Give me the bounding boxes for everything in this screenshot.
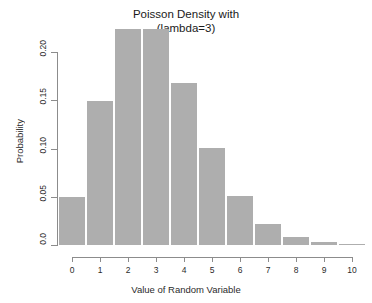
y-tick-label: 0.10 [38,137,48,154]
x-tick-label: 10 [342,265,362,275]
x-tick-label: 5 [202,265,222,275]
poisson-density-chart: Poisson Density with (lambda=3) 0.00.050… [0,0,372,303]
x-axis-title: Value of Random Variable [0,284,372,295]
plot-area: 0.00.050.100.150.20 Probability 01234567… [0,0,372,303]
y-tick-mark [51,245,57,246]
y-axis-line [57,52,58,246]
bar [59,197,85,245]
x-tick-label: 1 [90,265,110,275]
x-tick-mark [296,257,297,262]
x-tick-mark [268,257,269,262]
y-tick-label: 0.15 [38,88,48,105]
x-tick-mark [100,257,101,262]
x-tick-mark [128,257,129,262]
x-tick-mark [156,257,157,262]
bar [171,83,197,245]
x-tick-label: 0 [62,265,82,275]
y-tick-mark [51,197,57,198]
y-tick-mark [51,100,57,101]
x-tick-label: 2 [118,265,138,275]
x-tick-label: 4 [174,265,194,275]
x-tick-mark [240,257,241,262]
x-tick-mark [184,257,185,262]
bar [115,29,141,245]
bar [199,148,225,245]
bar [87,101,113,245]
y-tick-mark [51,52,57,53]
x-tick-label: 8 [286,265,306,275]
y-tick-mark [51,149,57,150]
bar [339,244,365,245]
bar [255,224,281,245]
bar [311,242,337,245]
x-tick-mark [352,257,353,262]
x-tick-mark [72,257,73,262]
y-tick-label: 0.05 [38,185,48,202]
x-tick-mark [324,257,325,262]
bar [227,196,253,245]
bar [283,237,309,245]
bar [143,29,169,245]
x-tick-mark [212,257,213,262]
x-tick-label: 3 [146,265,166,275]
x-tick-label: 9 [314,265,334,275]
y-axis-title: Probability [14,119,25,163]
x-tick-label: 7 [258,265,278,275]
y-tick-label: 0.0 [38,233,48,245]
x-tick-label: 6 [230,265,250,275]
y-tick-label: 0.20 [38,40,48,57]
